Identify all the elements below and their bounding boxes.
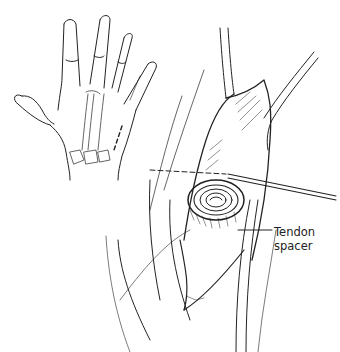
hand-inset [15,16,157,181]
illustration [0,0,340,352]
tendon-spacer-label: Tendon spacer [274,225,315,253]
label-line-1: Tendon [274,225,315,239]
label-line-2: spacer [274,239,315,253]
